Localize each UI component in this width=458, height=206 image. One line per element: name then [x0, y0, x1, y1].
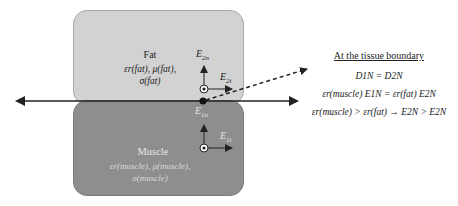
equation-2: εr(muscle) E1N = εr(fat) E2N: [300, 89, 458, 99]
equation-3: εr(muscle) > εr(fat) → E2N > E2N: [300, 107, 458, 117]
boundary-conditions-panel: At the tissue boundary D1N = D2N εr(musc…: [300, 50, 458, 125]
vector-e2t-label: E2t: [220, 71, 232, 85]
panel-heading: At the tissue boundary: [300, 50, 458, 61]
boundary-point-icon: [200, 98, 207, 105]
vector-e1t-label: E1t: [220, 130, 232, 144]
vector-e1n-label: E1n: [195, 105, 208, 119]
vector-e2n-label: E2n: [196, 48, 209, 62]
equation-1: D1N = D2N: [300, 71, 458, 81]
